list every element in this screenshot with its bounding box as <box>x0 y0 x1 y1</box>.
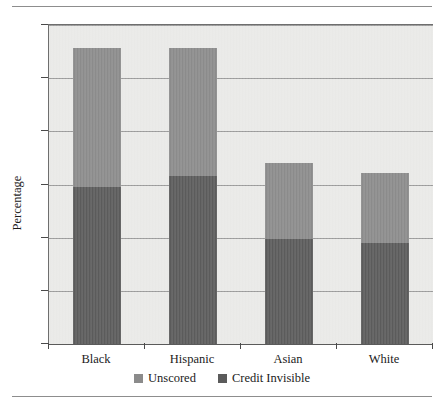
x-axis: BlackHispanicAsianWhite <box>48 343 432 373</box>
y-axis-title: Percentage <box>10 148 25 258</box>
y-tick-mark-15 <box>41 184 48 185</box>
bar-segment-credit-invisible-black[interactable] <box>73 187 121 344</box>
x-tick-mark-4 <box>432 343 433 349</box>
y-tick-mark-10 <box>41 237 48 238</box>
y-tick-mark-25 <box>41 77 48 78</box>
figure-container: Percentage 051015202530 BlackHispanicAsi… <box>0 0 444 405</box>
x-tick-label-white: White <box>369 352 400 367</box>
legend-item-credit-invisible[interactable]: Credit Invisible <box>218 371 310 386</box>
x-tick-mark-1 <box>144 343 145 349</box>
bar-segment-unscored-black[interactable] <box>73 48 121 186</box>
x-tick-label-hispanic: Hispanic <box>170 352 214 367</box>
legend-label-credit-invisible: Credit Invisible <box>232 371 310 386</box>
x-tick-mark-2 <box>240 343 241 349</box>
bar-segment-unscored-hispanic[interactable] <box>169 48 217 176</box>
x-tick-mark-edge-0 <box>48 343 49 349</box>
chart-legend: UnscoredCredit Invisible <box>0 371 444 386</box>
bar-white[interactable] <box>361 25 409 344</box>
bar-segment-credit-invisible-white[interactable] <box>361 243 409 344</box>
bar-segment-unscored-white[interactable] <box>361 173 409 243</box>
x-tick-label-black: Black <box>81 352 110 367</box>
bar-segment-credit-invisible-asian[interactable] <box>265 239 313 344</box>
y-tick-mark-30 <box>41 24 48 25</box>
x-tick-label-asian: Asian <box>273 352 302 367</box>
bar-segment-credit-invisible-hispanic[interactable] <box>169 176 217 344</box>
y-tick-mark-5 <box>41 290 48 291</box>
legend-swatch-unscored <box>134 374 143 383</box>
bar-black[interactable] <box>73 25 121 344</box>
figure-rule-bottom <box>12 396 432 397</box>
y-tick-mark-0 <box>41 343 48 344</box>
bar-segment-unscored-asian[interactable] <box>265 163 313 238</box>
bar-asian[interactable] <box>265 25 313 344</box>
plot-area <box>48 24 433 344</box>
bar-hispanic[interactable] <box>169 25 217 344</box>
legend-label-unscored: Unscored <box>148 371 196 386</box>
legend-item-unscored[interactable]: Unscored <box>134 371 196 386</box>
figure-rule-top <box>12 6 432 7</box>
plot-inner <box>49 25 433 344</box>
x-tick-mark-3 <box>336 343 337 349</box>
y-tick-mark-20 <box>41 130 48 131</box>
legend-swatch-credit-invisible <box>218 374 227 383</box>
